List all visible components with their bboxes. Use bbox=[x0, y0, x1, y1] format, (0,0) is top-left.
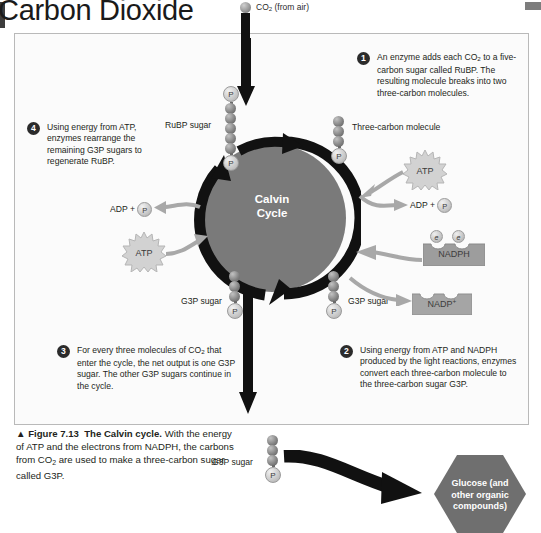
page-title: Carbon Dioxide bbox=[0, 0, 194, 27]
nadp-plus-superscript: + bbox=[453, 298, 457, 305]
glucose-label-line3: compounds) bbox=[434, 501, 526, 513]
three-carbon-molecule-chain: P bbox=[330, 117, 348, 164]
phosphate-chip-icon: P bbox=[437, 198, 452, 213]
adp-left-group: ADP + P bbox=[110, 202, 152, 217]
adp-right-group: ADP + P bbox=[410, 198, 452, 213]
g3p-output-molecule-chain: P bbox=[264, 436, 282, 483]
electron-symbol: e bbox=[457, 234, 461, 241]
electron-chip-icon: e bbox=[430, 230, 443, 243]
caption-figure-title: The Calvin cycle. bbox=[84, 428, 162, 439]
calvin-cycle-line1: Calvin bbox=[198, 192, 346, 206]
step-1-number: 1 bbox=[357, 52, 370, 65]
nadp-plus-group: NADP+ bbox=[412, 288, 472, 315]
three-carbon-molecule-label: Three-carbon molecule bbox=[352, 122, 440, 132]
atp-right-text: ATP bbox=[417, 166, 434, 176]
glucose-production-arrow-icon bbox=[282, 450, 442, 510]
adp-left-inflow-arrow-icon bbox=[152, 198, 202, 218]
rubp-sugar-label: RuBP sugar bbox=[165, 120, 211, 130]
adp-left-text: ADP + bbox=[110, 204, 137, 214]
rubp-phosphate-bottom: P bbox=[223, 155, 239, 171]
atp-right-starburst-icon: ATP bbox=[403, 150, 447, 190]
calvin-cycle-center-label: Calvin Cycle bbox=[198, 192, 346, 220]
nadph-label: NADPH bbox=[423, 249, 485, 259]
nadp-plus-base-text: NADP bbox=[428, 299, 453, 309]
g3p-output-phosphate: P bbox=[265, 467, 281, 483]
caption-figure-number: Figure 7.13 bbox=[28, 428, 79, 439]
g3p-right-phosphate: P bbox=[326, 303, 342, 319]
co2-inlet-stem bbox=[241, 13, 250, 39]
electron-symbol: e bbox=[435, 234, 439, 241]
step-4-text: Using energy from ATP, enzymes rearrange… bbox=[47, 122, 159, 168]
step-3-text: For every three molecules of CO2 that en… bbox=[77, 345, 242, 392]
glucose-label-line2: other organic bbox=[434, 490, 526, 502]
co2-from-air-suffix: (from air) bbox=[272, 2, 309, 12]
calvin-cycle-line2: Cycle bbox=[198, 206, 346, 220]
g3p-sugar-left-label: G3P sugar bbox=[181, 296, 222, 306]
phosphate-chip-icon: P bbox=[137, 202, 152, 217]
step-2-text: Using energy from ATP and NADPH produced… bbox=[360, 345, 520, 391]
rubp-molecule-chain: P P bbox=[222, 86, 240, 171]
glucose-label-line1: Glucose (and bbox=[434, 478, 526, 490]
co2-molecule-icon bbox=[240, 2, 251, 13]
atp-left-starburst-icon: ATP bbox=[122, 232, 166, 272]
co2-label-text: CO bbox=[256, 2, 269, 12]
top-right-tab-marker bbox=[525, 2, 541, 10]
nadp-plus-outflow-arrow-icon bbox=[348, 276, 416, 306]
adp-right-text: ADP + bbox=[410, 200, 437, 210]
three-carbon-phosphate: P bbox=[331, 148, 347, 164]
glucose-output-label: Glucose (and other organic compounds) bbox=[434, 478, 526, 513]
nadp-plus-label: NADP+ bbox=[412, 298, 472, 309]
electron-chip-icon: e bbox=[452, 230, 465, 243]
nadph-inflow-arrow-icon bbox=[352, 240, 424, 268]
step-2-number: 2 bbox=[340, 345, 353, 358]
atp-left-text: ATP bbox=[136, 248, 153, 258]
step-4-number: 4 bbox=[27, 122, 40, 135]
caption-arrow-glyph: ▲ bbox=[16, 428, 26, 439]
atp-left-outflow-arrow-icon bbox=[164, 232, 210, 262]
g3p-right-molecule-chain: P bbox=[325, 272, 343, 319]
rubp-phosphate-top: P bbox=[223, 86, 239, 102]
nadph-group: NADPH bbox=[423, 238, 485, 266]
figure-caption: ▲ Figure 7.13 The Calvin cycle. With the… bbox=[16, 427, 238, 482]
co2-from-air-label: CO2 (from air) bbox=[256, 2, 309, 12]
adp-right-outflow-arrow-icon bbox=[358, 192, 410, 216]
g3p-exit-arrow-icon bbox=[236, 292, 260, 414]
step-3-number: 3 bbox=[57, 345, 70, 358]
step-1-text: An enzyme adds each CO2 to a five-carbon… bbox=[377, 52, 527, 99]
